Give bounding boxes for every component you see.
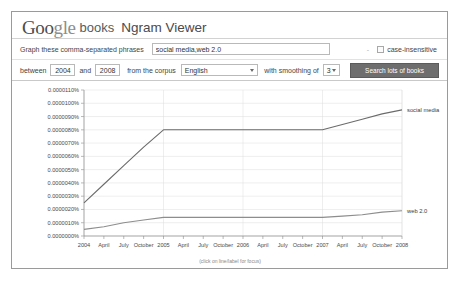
y-tick-label: 0.0000050%	[48, 167, 79, 173]
checkbox-box-icon[interactable]	[377, 46, 384, 53]
google-logo-part2: gle	[54, 17, 76, 38]
x-tick-label: 2004	[78, 242, 90, 248]
smoothing-select[interactable]: 3	[323, 64, 340, 76]
google-logo-part1: Goo	[22, 17, 54, 38]
x-tick-label: 2008	[396, 242, 408, 248]
y-tick-label: 0.0000040%	[48, 180, 79, 186]
query-row: Graph these comma-separated phrases - ca…	[12, 39, 447, 60]
x-tick-label: October	[213, 242, 233, 248]
focus-hint-text: (click on line/label for focus)	[199, 258, 261, 264]
x-tick-label: April	[98, 242, 109, 248]
grid-layer	[81, 90, 402, 239]
chevron-down-icon	[332, 69, 336, 72]
x-tick-label: 2005	[157, 242, 169, 248]
x-tick-label: October	[293, 242, 313, 248]
y-tick-label: 0.0000100%	[48, 100, 79, 106]
and-label: and	[79, 67, 91, 74]
chart-canvas[interactable]: 0.0000110%0.0000100%0.0000090%0.0000080%…	[12, 81, 447, 268]
y-tick-label: 0.0000070%	[48, 140, 79, 146]
y-axis-ticklabels: 0.0000110%0.0000100%0.0000090%0.0000080%…	[48, 87, 79, 239]
y-tick-label: 0.0000000%	[48, 233, 79, 239]
y-tick-label: 0.0000090%	[48, 114, 79, 120]
y-tick-label: 0.0000110%	[48, 87, 79, 93]
corpus-select-value: English	[185, 67, 208, 74]
case-insensitive-label: case-insensitive	[387, 46, 437, 53]
x-tick-label: July	[357, 242, 367, 248]
row-separator-dash: -	[367, 46, 369, 53]
chevron-down-icon	[250, 69, 254, 72]
x-tick-label: April	[178, 242, 189, 248]
corpus-label: from the corpus	[127, 67, 176, 74]
phrases-input[interactable]	[152, 43, 330, 55]
x-tick-label: 2006	[237, 242, 249, 248]
x-tick-label: October	[372, 242, 392, 248]
y-tick-label: 0.0000010%	[48, 220, 79, 226]
series-label[interactable]: social media	[407, 107, 440, 113]
ngram-viewer-window: Google books Ngram Viewer Graph these co…	[11, 11, 448, 269]
y-tick-label: 0.0000060%	[48, 153, 79, 159]
y-tick-label: 0.0000080%	[48, 127, 79, 133]
x-tick-label: April	[257, 242, 268, 248]
page-title: Ngram Viewer	[121, 18, 206, 37]
x-tick-label: 2007	[316, 242, 328, 248]
x-tick-label: October	[134, 242, 154, 248]
app-header: Google books Ngram Viewer	[12, 12, 447, 39]
phrases-label: Graph these comma-separated phrases	[20, 46, 144, 53]
options-row: between and from the corpus English with…	[12, 60, 447, 81]
search-button[interactable]: Search lots of books	[350, 63, 439, 78]
y-tick-label: 0.0000030%	[48, 193, 79, 199]
series-label[interactable]: web 2.0	[406, 208, 427, 214]
smoothing-label: with smoothing of	[264, 67, 318, 74]
x-tick-label: April	[337, 242, 348, 248]
smoothing-select-value: 3	[327, 67, 331, 74]
between-label: between	[20, 67, 46, 74]
case-insensitive-checkbox[interactable]: case-insensitive	[377, 46, 437, 53]
google-logo[interactable]: Google	[22, 18, 76, 37]
books-wordmark[interactable]: books	[80, 18, 115, 37]
y-tick-label: 0.0000020%	[48, 206, 79, 212]
x-axis-ticklabels: 2004AprilJulyOctober2005AprilJulyOctober…	[78, 242, 408, 248]
series-labels-layer[interactable]: social mediaweb 2.0	[406, 107, 440, 214]
end-year-input[interactable]	[95, 64, 120, 76]
start-year-input[interactable]	[50, 64, 75, 76]
x-tick-label: July	[278, 242, 288, 248]
ngram-chart[interactable]: 0.0000110%0.0000100%0.0000090%0.0000080%…	[12, 81, 447, 268]
x-tick-label: July	[198, 242, 208, 248]
corpus-select[interactable]: English	[181, 64, 258, 76]
x-tick-label: July	[119, 242, 129, 248]
